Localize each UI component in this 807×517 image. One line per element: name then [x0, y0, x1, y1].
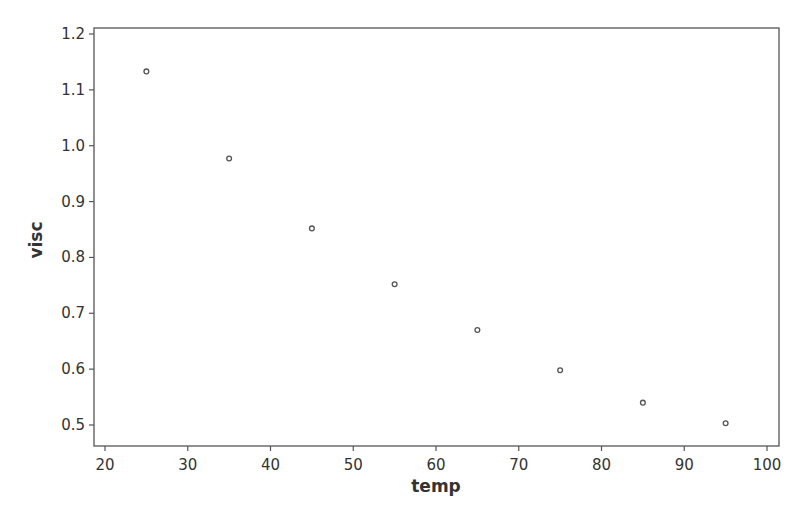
- y-tick-label: 1.2: [61, 25, 85, 43]
- data-point-marker: [558, 368, 563, 373]
- y-tick-label: 0.7: [61, 304, 85, 322]
- x-tick-label: 50: [344, 456, 363, 474]
- y-tick-label: 1.0: [61, 137, 85, 155]
- data-point-marker: [392, 282, 397, 287]
- plot-frame: [94, 28, 779, 446]
- plot-area: [94, 28, 779, 446]
- x-axis-label: temp: [411, 476, 461, 496]
- y-tick-label: 0.9: [61, 193, 85, 211]
- data-point-marker: [144, 69, 149, 74]
- y-tick-label: 0.5: [61, 416, 85, 434]
- scatter-chart: 2030405060708090100 0.50.60.70.80.91.01.…: [0, 0, 807, 517]
- y-tick-label: 0.8: [61, 248, 85, 266]
- x-tick-label: 70: [509, 456, 528, 474]
- data-point-marker: [723, 421, 728, 426]
- data-point-marker: [640, 400, 645, 405]
- data-point-marker: [309, 226, 314, 231]
- x-tick-label: 60: [426, 456, 445, 474]
- x-tick-label: 40: [261, 456, 280, 474]
- x-tick-label: 80: [592, 456, 611, 474]
- y-axis: 0.50.60.70.80.91.01.11.2: [61, 25, 94, 434]
- x-tick-label: 30: [178, 456, 197, 474]
- y-tick-label: 1.1: [61, 81, 85, 99]
- y-axis-label: visc: [26, 221, 46, 258]
- data-points: [144, 69, 728, 426]
- x-tick-label: 20: [95, 456, 114, 474]
- x-tick-label: 100: [753, 456, 782, 474]
- data-point-marker: [227, 156, 232, 161]
- x-axis: 2030405060708090100: [95, 446, 781, 474]
- data-point-marker: [475, 328, 480, 333]
- x-tick-label: 90: [675, 456, 694, 474]
- y-tick-label: 0.6: [61, 360, 85, 378]
